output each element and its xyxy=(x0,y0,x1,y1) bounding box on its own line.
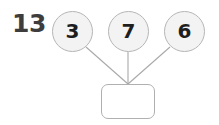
addend-circle-2: 7 xyxy=(108,11,149,52)
answer-input-box[interactable] xyxy=(101,84,155,119)
total-value: 13 xyxy=(12,9,46,39)
addend-circle-3: 6 xyxy=(164,11,205,52)
addend-circle-1: 3 xyxy=(52,11,93,52)
connector-line-right xyxy=(128,47,170,84)
number-bond-worksheet: 13 3 7 6 xyxy=(0,0,219,125)
connector-line-left xyxy=(86,47,128,84)
